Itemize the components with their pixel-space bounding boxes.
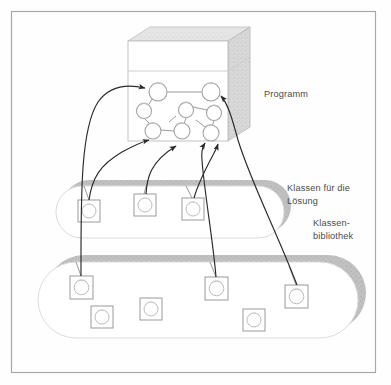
class-icon (91, 306, 113, 328)
program-class-node (174, 123, 190, 139)
figure-root: Programm Klassen für die Lösung Klassen-… (0, 0, 391, 385)
program-class-node (149, 83, 167, 101)
program-class-node (137, 103, 152, 118)
label-klassen-fuer-die-loesung: Klassen für die Lösung (287, 182, 350, 207)
program-class-node (203, 125, 219, 141)
class-icon (70, 276, 93, 299)
label-programm: Programm (264, 88, 308, 101)
class-icon (205, 277, 228, 300)
program-cube (128, 27, 250, 141)
class-icon (243, 309, 265, 331)
label-klassenbibliothek: Klassen- bibliothek (313, 217, 353, 242)
class-icon (134, 194, 156, 216)
program-class-node (179, 102, 194, 117)
class-icon (182, 198, 204, 220)
program-class-node (207, 105, 222, 120)
class-icon (285, 285, 308, 308)
program-class-node (202, 83, 220, 101)
class-icon (140, 298, 162, 320)
program-class-node (145, 123, 161, 139)
